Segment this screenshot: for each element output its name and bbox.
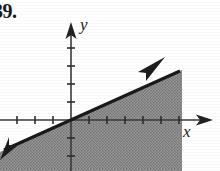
coordinate-plane-figure <box>0 0 220 171</box>
y-axis-label: y <box>80 16 88 33</box>
boundary-line-arrowhead-right <box>138 57 165 81</box>
x-axis-label: x <box>183 123 191 140</box>
figure-page: 39. <box>0 0 220 171</box>
